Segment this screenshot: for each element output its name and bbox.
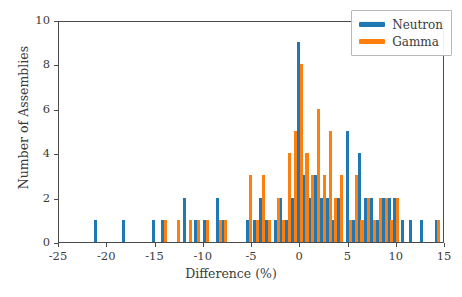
- bar-gamma: [268, 220, 271, 242]
- bar-gamma: [305, 153, 308, 242]
- bar-gamma: [219, 220, 222, 242]
- x-tick-label: -15: [135, 249, 175, 263]
- bar-gamma: [317, 109, 320, 242]
- x-tick-label: -25: [38, 249, 78, 263]
- legend-item-gamma[interactable]: Gamma: [359, 33, 443, 50]
- y-tick: [54, 65, 58, 66]
- y-tick: [54, 110, 58, 111]
- x-tick: [203, 243, 204, 247]
- y-axis-label: Number of Assemblies: [16, 3, 31, 233]
- bar-neutron: [401, 220, 404, 242]
- x-tick: [251, 243, 252, 247]
- bar-neutron: [152, 220, 155, 242]
- x-tick-label: 5: [328, 249, 368, 263]
- bar-gamma: [164, 220, 167, 242]
- bar-neutron: [420, 220, 423, 242]
- x-tick-label: -10: [183, 249, 223, 263]
- bar-gamma: [189, 220, 192, 242]
- bar-gamma: [197, 220, 200, 242]
- bar-gamma: [256, 220, 259, 242]
- bar-gamma: [277, 198, 280, 242]
- bar-gamma: [349, 220, 352, 242]
- y-tick: [54, 199, 58, 200]
- x-tick: [106, 243, 107, 247]
- x-tick: [299, 243, 300, 247]
- bar-neutron: [409, 220, 412, 242]
- legend-label: Gamma: [392, 35, 439, 49]
- bar-gamma: [311, 175, 314, 242]
- bar-gamma: [390, 220, 393, 242]
- x-axis-label: Difference (%): [0, 266, 462, 281]
- bar-gamma: [288, 153, 291, 242]
- bar-gamma: [340, 175, 343, 242]
- x-tick-label: 10: [376, 249, 416, 263]
- legend: NeutronGamma: [351, 10, 452, 56]
- bar-gamma: [437, 220, 440, 242]
- y-tick: [54, 243, 58, 244]
- legend-swatch-gamma: [359, 39, 385, 44]
- bar-gamma: [300, 64, 303, 242]
- bar-gamma: [282, 220, 285, 242]
- x-tick-label: -20: [86, 249, 126, 263]
- x-tick: [155, 243, 156, 247]
- bar-gamma: [206, 220, 209, 242]
- bar-neutron: [122, 220, 125, 242]
- bar-gamma: [355, 175, 358, 242]
- x-tick-label: 0: [279, 249, 319, 263]
- bar-gamma: [396, 198, 399, 242]
- legend-item-neutron[interactable]: Neutron: [359, 16, 443, 33]
- bar-gamma: [262, 175, 265, 242]
- bar-neutron: [183, 198, 186, 242]
- bar-neutron: [94, 220, 97, 242]
- bar-gamma: [334, 198, 337, 242]
- y-tick: [54, 21, 58, 22]
- bar-gamma: [323, 175, 326, 242]
- bar-gamma: [373, 220, 376, 242]
- bar-gamma: [224, 220, 227, 242]
- bar-gamma: [329, 131, 332, 242]
- bar-gamma: [367, 198, 370, 242]
- bar-gamma: [249, 175, 252, 242]
- bar-gamma: [177, 220, 180, 242]
- x-tick-label: -5: [231, 249, 271, 263]
- bar-gamma: [379, 198, 382, 242]
- legend-swatch-neutron: [359, 22, 385, 27]
- bar-gamma: [294, 131, 297, 242]
- bar-gamma: [360, 220, 363, 242]
- x-tick-label: 15: [424, 249, 462, 263]
- x-tick: [396, 243, 397, 247]
- legend-label: Neutron: [392, 18, 443, 32]
- x-tick: [348, 243, 349, 247]
- bar-gamma: [385, 198, 388, 242]
- y-tick-label: 0: [24, 235, 50, 249]
- y-tick: [54, 154, 58, 155]
- x-tick: [58, 243, 59, 247]
- x-tick: [444, 243, 445, 247]
- histogram-figure: -25-20-15-10-5051015 0246810 Difference …: [0, 0, 462, 297]
